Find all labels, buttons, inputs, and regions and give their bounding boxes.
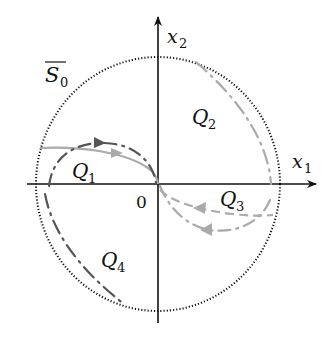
phase-portrait-diagram: S 0 x 2 x 1 0 Q 1 Q 2 Q 3 Q 4 xyxy=(0,0,333,345)
svg-text:3: 3 xyxy=(236,199,244,214)
q3-dashed-arrow-icon xyxy=(193,202,206,214)
svg-text:x: x xyxy=(167,25,178,47)
quadrant-label-q2: Q 2 xyxy=(192,105,216,132)
origin-label: 0 xyxy=(136,192,147,212)
svg-text:1: 1 xyxy=(88,171,96,186)
svg-text:Q: Q xyxy=(101,248,117,272)
x1-axis-label: x 1 xyxy=(292,150,312,176)
quadrant-label-q4: Q 4 xyxy=(101,248,125,275)
quadrant-label-q1: Q 1 xyxy=(72,159,96,186)
svg-text:Q: Q xyxy=(192,105,208,129)
svg-text:1: 1 xyxy=(304,161,312,176)
q1-light-trajectory xyxy=(40,148,158,184)
region-label-main: S xyxy=(45,63,59,87)
svg-text:2: 2 xyxy=(208,117,216,132)
q3-dashdot-trajectory xyxy=(160,186,270,231)
quadrant-label-q3: Q 3 xyxy=(220,187,244,214)
q3-dashdot-arrow-icon xyxy=(200,223,212,236)
svg-text:x: x xyxy=(292,150,303,172)
q1-dark-arrow-icon xyxy=(94,137,106,148)
svg-text:2: 2 xyxy=(179,36,187,51)
q1-dark-trajectory xyxy=(49,143,156,186)
svg-text:Q: Q xyxy=(220,187,236,211)
svg-text:Q: Q xyxy=(72,159,88,183)
region-label-subscript: 0 xyxy=(60,75,68,90)
svg-text:4: 4 xyxy=(117,260,125,275)
region-label: S 0 xyxy=(45,62,68,90)
x2-axis-label: x 2 xyxy=(167,25,187,51)
